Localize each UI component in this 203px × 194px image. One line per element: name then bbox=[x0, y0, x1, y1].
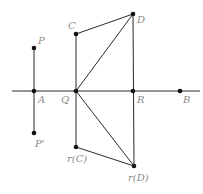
point-rC bbox=[74, 145, 79, 150]
segments bbox=[34, 14, 134, 166]
label-D: D bbox=[136, 14, 145, 25]
point-Q bbox=[74, 89, 79, 94]
point-P bbox=[32, 46, 37, 51]
label-rD: r(D) bbox=[128, 172, 149, 183]
point-R bbox=[131, 89, 136, 94]
point-A bbox=[32, 89, 37, 94]
segment-C-D bbox=[76, 14, 133, 34]
diagram-svg: PAP'CQr(C)DRr(D)B bbox=[0, 0, 203, 194]
label-rC: r(C) bbox=[67, 153, 87, 164]
point-C bbox=[74, 32, 79, 37]
point-D bbox=[131, 12, 136, 17]
segment-Q-D bbox=[76, 14, 133, 91]
label-Q: Q bbox=[61, 94, 69, 105]
label-P: P bbox=[37, 35, 45, 46]
label-P_prime: P' bbox=[34, 138, 44, 149]
point-rD bbox=[132, 164, 137, 169]
points bbox=[32, 12, 183, 169]
point-P_prime bbox=[32, 131, 37, 136]
label-B: B bbox=[182, 94, 190, 105]
label-A: A bbox=[37, 94, 45, 105]
label-C: C bbox=[68, 20, 76, 31]
label-R: R bbox=[136, 94, 145, 105]
point-B bbox=[178, 89, 183, 94]
reflection-diagram: PAP'CQr(C)DRr(D)B bbox=[0, 0, 203, 194]
labels: PAP'CQr(C)DRr(D)B bbox=[34, 14, 190, 183]
